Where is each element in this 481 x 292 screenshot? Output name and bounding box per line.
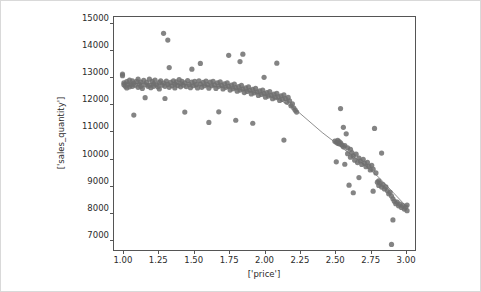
scatter-point xyxy=(338,106,343,111)
figure-canvas: 7000800090001000011000120001300014000150… xyxy=(0,0,481,292)
y-tick-mark xyxy=(110,159,113,160)
scatter-point xyxy=(351,190,356,195)
scatter-point xyxy=(341,125,346,130)
x-tick-label: 2.50 xyxy=(326,255,345,265)
scatter-point xyxy=(334,159,339,164)
x-tick-mark xyxy=(265,251,266,254)
scatter-point xyxy=(274,61,279,66)
scatter-point xyxy=(372,126,377,131)
x-tick-mark xyxy=(194,251,195,254)
y-axis-label: ['sales_quantity'] xyxy=(56,97,66,170)
x-tick-label: 1.00 xyxy=(113,255,132,265)
x-tick-mark xyxy=(229,251,230,254)
scatter-point xyxy=(189,67,194,72)
y-tick-label: 11000 xyxy=(73,121,109,131)
y-tick-mark xyxy=(110,23,113,24)
scatter-point xyxy=(198,61,203,66)
scatter-point xyxy=(356,175,361,180)
scatter-point xyxy=(404,202,409,207)
scatter-point xyxy=(250,121,255,126)
y-tick-mark xyxy=(110,213,113,214)
scatter-point xyxy=(294,109,299,114)
x-tick-label: 2.00 xyxy=(255,255,274,265)
chart-svg xyxy=(114,17,416,251)
y-tick-label: 12000 xyxy=(73,94,109,104)
scatter-point xyxy=(240,52,245,57)
scatter-point xyxy=(390,217,395,222)
y-tick-label: 10000 xyxy=(73,149,109,159)
x-tick-label: 1.75 xyxy=(220,255,239,265)
y-tick-label: 14000 xyxy=(73,40,109,50)
y-tick-label: 8000 xyxy=(73,203,109,213)
scatter-point xyxy=(373,170,378,175)
x-tick-label: 2.75 xyxy=(361,255,380,265)
fitted-curve-line xyxy=(123,83,408,207)
y-axis-label-wrap: ['sales_quantity'] xyxy=(63,1,64,266)
scatter-point xyxy=(167,65,172,70)
scatter-point xyxy=(379,151,384,156)
scatter-point xyxy=(120,73,125,78)
scatter-point xyxy=(281,137,286,142)
scatter-point xyxy=(143,95,148,100)
scatter-point xyxy=(371,189,376,194)
y-tick-label: 15000 xyxy=(73,13,109,23)
x-tick-mark xyxy=(335,251,336,254)
scatter-point xyxy=(216,109,221,114)
x-tick-label: 1.25 xyxy=(149,255,168,265)
x-tick-label: 1.50 xyxy=(184,255,203,265)
y-tick-label: 7000 xyxy=(73,230,109,240)
plot-axes-frame xyxy=(113,16,416,251)
x-tick-mark xyxy=(300,251,301,254)
y-tick-label: 13000 xyxy=(73,67,109,77)
scatter-point xyxy=(233,118,238,123)
y-tick-mark xyxy=(110,240,113,241)
x-tick-mark xyxy=(158,251,159,254)
y-tick-label: 9000 xyxy=(73,176,109,186)
scatter-points-group xyxy=(120,31,410,247)
x-tick-mark xyxy=(123,251,124,254)
x-tick-mark xyxy=(406,251,407,254)
scatter-point xyxy=(342,162,347,167)
scatter-point xyxy=(346,183,351,188)
scatter-point xyxy=(162,96,167,101)
scatter-point xyxy=(131,112,136,117)
scatter-point xyxy=(237,59,242,64)
scatter-point xyxy=(404,208,409,213)
x-axis-label: ['price'] xyxy=(248,269,280,279)
y-tick-mark xyxy=(110,77,113,78)
y-tick-mark xyxy=(110,186,113,187)
scatter-point xyxy=(261,75,266,80)
scatter-point xyxy=(161,31,166,36)
scatter-point xyxy=(206,120,211,125)
scatter-point xyxy=(226,53,231,58)
scatter-point xyxy=(389,242,394,247)
x-tick-label: 3.00 xyxy=(397,255,416,265)
scatter-point xyxy=(165,37,170,42)
scatter-point xyxy=(182,109,187,114)
y-tick-mark xyxy=(110,131,113,132)
x-tick-label: 2.25 xyxy=(290,255,309,265)
y-tick-mark xyxy=(110,104,113,105)
x-tick-mark xyxy=(371,251,372,254)
scatter-point xyxy=(344,131,349,136)
y-tick-mark xyxy=(110,50,113,51)
